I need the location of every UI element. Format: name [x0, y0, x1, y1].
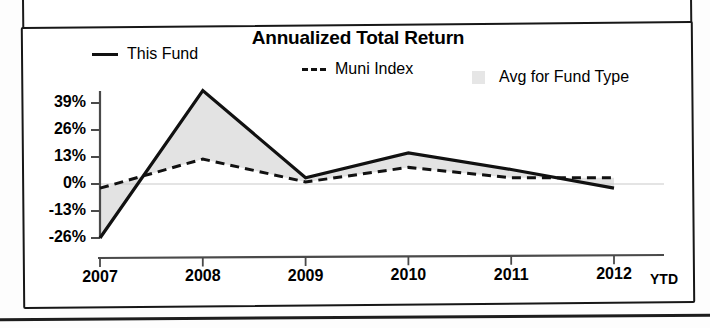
- page-bottom-rule: [0, 314, 710, 321]
- y-axis-tick-label: 26%: [22, 120, 86, 138]
- y-axis-tick-label: -26%: [22, 228, 86, 246]
- x-axis-tick-label: 2007: [68, 268, 132, 286]
- y-axis-tick-label: 0%: [22, 174, 86, 192]
- scanned-page: Annualized Total Return This Fund Muni I…: [0, 0, 710, 328]
- x-axis-ytd-suffix-label: YTD: [650, 271, 678, 287]
- x-axis-tick-label: 2012: [582, 265, 646, 283]
- y-axis-tick-label: 39%: [22, 93, 86, 111]
- x-axis-tick-label: 2009: [274, 267, 338, 285]
- plot-area: [24, 26, 692, 304]
- x-axis-tick-label: 2011: [479, 266, 543, 284]
- y-axis-tick-label: 13%: [22, 147, 86, 165]
- annualized-total-return-chart-panel: Annualized Total Return This Fund Muni I…: [21, 21, 695, 309]
- x-axis-line: [98, 255, 664, 258]
- x-axis-tick-label: 2010: [376, 266, 440, 284]
- x-axis-tick-label: 2008: [171, 267, 235, 285]
- y-axis-tick-label: -13%: [22, 201, 86, 219]
